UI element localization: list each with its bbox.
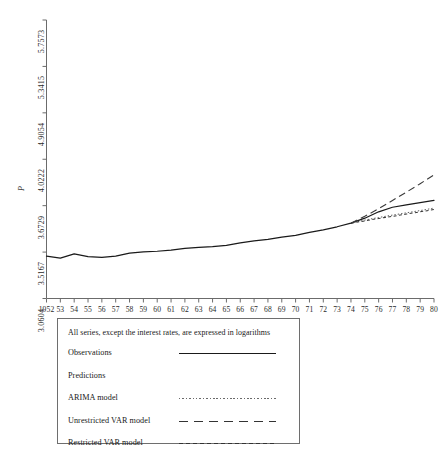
x-axis-tick-label: 67 <box>250 305 258 314</box>
legend-item-swatch <box>179 443 276 444</box>
legend-item-swatch <box>179 398 276 399</box>
x-axis-tick-label: 1952 <box>39 305 55 314</box>
series-line-restricted-var <box>351 210 434 224</box>
x-axis-tick-label: 59 <box>139 305 147 314</box>
x-axis-ticks <box>47 299 435 303</box>
y-axis-tick-label: 5.7573 <box>36 19 45 65</box>
legend-item-label: Predictions <box>68 371 105 380</box>
x-axis-tick-label: 72 <box>319 305 327 314</box>
x-axis-tick-label: 77 <box>389 305 397 314</box>
x-axis-tick-label: 68 <box>264 305 272 314</box>
y-axis-tick-label: 3.5167 <box>36 251 45 297</box>
x-axis-tick-label: 56 <box>98 305 106 314</box>
x-axis-tick-label: 57 <box>112 305 120 314</box>
x-axis-tick-label: 63 <box>195 305 203 314</box>
x-axis-tick-label: 71 <box>306 305 314 314</box>
y-axis-tick-label: 4.0222 <box>36 158 45 204</box>
x-axis-tick-label: 69 <box>278 305 286 314</box>
y-axis-tick-label: 3.6729 <box>36 204 45 250</box>
series-line-unrestricted-var <box>351 175 434 223</box>
x-axis-tick-label: 75 <box>361 305 369 314</box>
x-axis-tick-label: 74 <box>347 305 355 314</box>
x-axis-tick-label: 53 <box>56 305 64 314</box>
x-axis-tick-label: 61 <box>167 305 175 314</box>
figure: 5.75735.34154.90544.02223.67293.51673.06… <box>0 0 442 461</box>
x-axis-tick-label: 76 <box>375 305 383 314</box>
legend-item-swatch <box>179 353 276 354</box>
legend-item-label: Unrestricted VAR model <box>68 416 150 425</box>
x-axis-tick-label: 66 <box>236 305 244 314</box>
legend-note: All series, except the interest rates, a… <box>68 328 270 337</box>
legend-item-swatch <box>179 421 276 422</box>
legend-item-label: ARIMA model <box>68 393 118 402</box>
x-axis-tick-label: 64 <box>209 305 217 314</box>
x-axis-tick-label: 79 <box>416 305 424 314</box>
x-axis-tick-label: 70 <box>292 305 300 314</box>
x-axis-tick-label: 58 <box>126 305 134 314</box>
x-axis-tick-label: 54 <box>70 305 78 314</box>
legend-item-label: Observations <box>68 348 112 357</box>
legend-box: All series, except the interest rates, a… <box>57 318 300 444</box>
y-axis-tick-label: 4.9054 <box>36 111 45 157</box>
x-axis-tick-label: 62 <box>181 305 189 314</box>
series-line-observations <box>47 200 435 258</box>
x-axis-tick-label: 65 <box>223 305 231 314</box>
legend-item-label: Restricted VAR model <box>68 438 143 447</box>
x-axis-tick-label: 73 <box>333 305 341 314</box>
x-axis-tick-label: 60 <box>153 305 161 314</box>
x-axis-tick-label: 55 <box>84 305 92 314</box>
y-axis-title: P <box>16 174 25 204</box>
y-axis-tick-label: 5.3415 <box>36 65 45 111</box>
x-axis-tick-label: 80 <box>430 305 438 314</box>
x-axis-tick-label: 78 <box>402 305 410 314</box>
